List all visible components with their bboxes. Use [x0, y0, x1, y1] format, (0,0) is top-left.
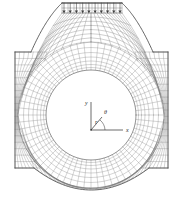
mesh-canvas: y x θ r	[0, 0, 183, 214]
y-axis-label: y	[84, 100, 88, 106]
fem-mesh-figure: y x θ r	[0, 0, 183, 214]
x-axis-label: x	[125, 127, 129, 133]
theta-label: θ	[104, 109, 107, 115]
figure-background	[0, 0, 183, 214]
origin-dot	[90, 129, 92, 131]
